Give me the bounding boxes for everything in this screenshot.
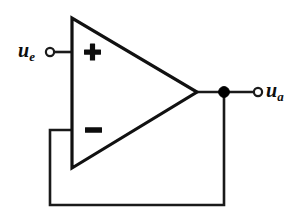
opamp-voltage-follower-diagram: ue ua (0, 0, 302, 212)
output-voltage-label: ua (266, 80, 284, 103)
opamp-triangle-symbol (72, 18, 197, 168)
input-voltage-subscript: e (29, 49, 35, 64)
circuit-canvas (0, 0, 302, 212)
inverting-minus-icon (85, 127, 102, 133)
output-voltage-symbol: u (266, 79, 277, 101)
output-terminal-node (254, 88, 262, 96)
input-voltage-label: ue (18, 40, 35, 63)
output-junction-dot (219, 87, 230, 98)
input-voltage-symbol: u (18, 39, 29, 61)
output-voltage-subscript: a (277, 89, 284, 104)
input-terminal-node (46, 48, 54, 56)
